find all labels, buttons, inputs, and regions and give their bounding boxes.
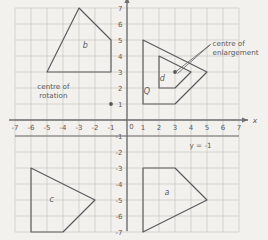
x-tick-label: -1: [108, 124, 115, 132]
x-tick-label: 6: [221, 124, 226, 132]
coordinate-grid-diagram: xy-7-6-5-4-3-2-1012345677654321-1-2-3-4-…: [0, 0, 268, 240]
x-tick-label: -3: [76, 124, 83, 132]
annotation-centre-of-enlargement-line2: enlargement: [213, 48, 259, 57]
x-tick-label-0: 0: [129, 123, 133, 131]
marker-centre-of-enlargement: [173, 70, 177, 74]
marker-centre-of-rotation: [109, 102, 113, 106]
y-tick-label: 5: [118, 37, 122, 45]
y-tick-label: 6: [118, 21, 123, 29]
worksheet-canvas: xy-7-6-5-4-3-2-1012345677654321-1-2-3-4-…: [0, 0, 268, 240]
y-tick-label: -5: [116, 197, 123, 205]
y-tick-label: 1: [118, 101, 122, 109]
y-tick-label: -4: [116, 181, 124, 189]
x-tick-label: 2: [157, 124, 161, 132]
x-tick-label: 1: [141, 124, 145, 132]
shape-label-a: a: [165, 188, 170, 197]
y-tick-label: -2: [116, 149, 123, 157]
y-tick-label: -6: [116, 213, 124, 221]
annotation-centre-of-enlargement-line1: centre of: [213, 39, 246, 48]
x-tick-label: -6: [28, 124, 36, 132]
shape-label-Q: Q: [144, 87, 150, 96]
shape-label-c: c: [50, 195, 55, 204]
annotation-centre-of-rotation-line1: centre of: [37, 82, 70, 91]
y-tick-label: 3: [118, 69, 122, 77]
annotation-centre-of-rotation-line2: rotation: [39, 91, 67, 100]
y-tick-label: 7: [118, 5, 122, 13]
x-tick-label: 7: [237, 124, 241, 132]
shape-label-b: b: [83, 41, 88, 50]
x-tick-label: -4: [60, 124, 68, 132]
x-tick-label: 5: [205, 124, 209, 132]
x-tick-label: 3: [173, 124, 177, 132]
x-tick-label: 4: [189, 124, 194, 132]
x-tick-label: -5: [44, 124, 51, 132]
y-tick-label: 4: [118, 53, 123, 61]
y-tick-label: -7: [116, 229, 123, 237]
y-tick-label: 2: [118, 85, 122, 93]
y-tick-label: -3: [116, 165, 123, 173]
annotation-line-y-equals-minus-1-line1: y = -1: [190, 141, 212, 150]
x-tick-label: -2: [92, 124, 99, 132]
x-tick-label: -7: [12, 124, 19, 132]
x-axis-label: x: [252, 116, 258, 125]
